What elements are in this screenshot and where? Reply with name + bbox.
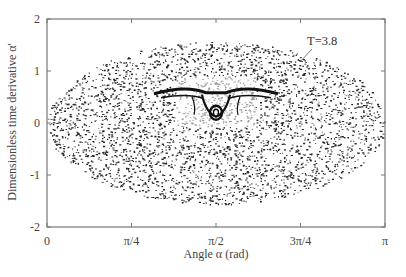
y-tick-label: 2 — [34, 12, 40, 26]
y-tick-label: 0 — [34, 116, 40, 130]
x-tick-label: 0 — [44, 234, 50, 248]
annotation-label: T=3.8 — [307, 34, 337, 48]
y-axis-title: Dimensionless time derivative α' — [5, 43, 19, 200]
annotation-pointer — [300, 49, 312, 62]
poincare-scatter-chart: 0π/4π/23π/4π 210-1-2 T=3.8 Angle α (rad)… — [0, 0, 406, 277]
x-tick-label: π/2 — [208, 234, 223, 248]
x-tick-label: π/4 — [124, 234, 139, 248]
x-tick-label: 3π/4 — [290, 234, 311, 248]
regular-island-structure — [154, 77, 278, 127]
y-tick-label: -2 — [30, 220, 40, 234]
y-tick-label: 1 — [34, 64, 40, 78]
x-tick-label: π — [382, 234, 388, 248]
x-axis-title: Angle α (rad) — [184, 247, 249, 261]
y-tick-label: -1 — [30, 168, 40, 182]
